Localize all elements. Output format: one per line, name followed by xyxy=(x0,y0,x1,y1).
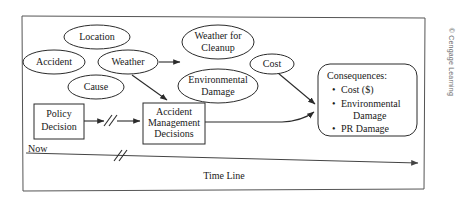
node-accident-label: Accident xyxy=(36,56,72,67)
node-environmental-damage-label-line1: Environmental xyxy=(188,74,248,85)
node-weather-label: Weather xyxy=(111,56,145,67)
node-weather-for-cleanup[interactable]: Weather for Cleanup xyxy=(182,25,254,59)
node-cause[interactable]: Cause xyxy=(68,75,124,99)
figure-canvas: Location Accident Weather Cause Weather … xyxy=(0,0,456,210)
node-weather-for-cleanup-label-line2: Cleanup xyxy=(201,42,234,53)
time-line-label: Time Line xyxy=(203,170,245,181)
node-cost-label: Cost xyxy=(263,58,282,69)
double-slash-break-icon xyxy=(104,115,117,126)
consequences-bullet-marker-2: • xyxy=(332,98,336,109)
consequences-bullet-2: Environmental xyxy=(341,98,401,109)
consequences-bullet-marker-3: • xyxy=(332,123,336,134)
node-weather-for-cleanup-label-line1: Weather for xyxy=(194,30,242,41)
connector-cost-to-consequences xyxy=(278,73,315,104)
node-amd-label-line1: Accident xyxy=(156,106,192,117)
node-policy-decision-label-line1: Policy xyxy=(46,108,72,119)
connector-amd-to-consequences xyxy=(205,112,314,122)
node-environmental-damage[interactable]: Environmental Damage xyxy=(178,69,258,103)
node-location-label: Location xyxy=(79,31,115,42)
consequences-bullet-2-cont: Damage xyxy=(353,110,387,121)
consequences-bullet-1: Cost ($) xyxy=(341,84,374,96)
node-accident[interactable]: Accident xyxy=(23,50,85,74)
node-weather[interactable]: Weather xyxy=(98,50,158,74)
node-amd-label-line3: Decisions xyxy=(154,128,194,139)
node-environmental-damage-label-line2: Damage xyxy=(201,86,235,97)
node-amd-label-line2: Management xyxy=(148,117,200,128)
node-cost[interactable]: Cost xyxy=(250,54,294,74)
consequences-heading: Consequences: xyxy=(327,70,387,81)
connector-weather-to-amd xyxy=(132,75,167,100)
copyright-credit: © Cengage Learning xyxy=(448,28,455,96)
node-consequences[interactable]: Consequences: • Cost ($) • Environmental… xyxy=(318,64,417,136)
node-accident-management-decisions[interactable]: Accident Management Decisions xyxy=(143,103,205,144)
node-location[interactable]: Location xyxy=(64,25,130,49)
consequences-bullet-marker-1: • xyxy=(332,84,336,95)
node-cause-label: Cause xyxy=(84,81,109,92)
timeline-axis xyxy=(26,153,418,163)
diagram-svg: Location Accident Weather Cause Weather … xyxy=(0,0,456,210)
node-policy-decision-label-line2: Decision xyxy=(41,121,77,132)
consequences-bullet-3: PR Damage xyxy=(341,123,390,134)
node-policy-decision[interactable]: Policy Decision xyxy=(34,104,84,139)
